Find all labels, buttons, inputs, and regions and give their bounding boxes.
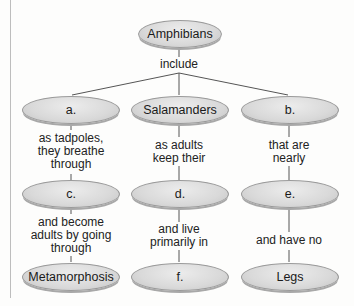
link-text-line: nearly: [239, 152, 339, 165]
node-f: f.: [131, 263, 229, 291]
link-text-line: keep their: [129, 152, 229, 165]
node-d: d.: [131, 180, 229, 208]
node-legs: Legs: [241, 263, 339, 291]
node-label: Legs: [276, 270, 303, 284]
node-label: c.: [66, 187, 76, 201]
link-as-adults-keep: as adults keep their: [129, 139, 229, 165]
link-text-line: primarily in: [129, 236, 229, 249]
node-e: e.: [241, 180, 339, 208]
link-text-line: through: [21, 242, 121, 255]
node-a: a.: [22, 96, 120, 124]
node-c: c.: [22, 180, 120, 208]
link-and-become-adults: and become adults by going through: [21, 216, 121, 255]
node-metamorphosis: Metamorphosis: [22, 263, 120, 291]
node-label: e.: [285, 187, 295, 201]
link-include: include: [139, 58, 219, 71]
link-text-line: through: [21, 158, 121, 171]
link-text-line: and have no: [234, 234, 344, 247]
link-and-have-no: and have no: [234, 234, 344, 247]
link-that-are-nearly: that are nearly: [239, 139, 339, 165]
node-label: f.: [177, 270, 184, 284]
node-label: b.: [285, 103, 295, 117]
node-label: a.: [66, 103, 76, 117]
node-b: b.: [241, 96, 339, 124]
link-as-tadpoles: as tadpoles, they breathe through: [21, 132, 121, 171]
link-and-live-primarily: and live primarily in: [129, 223, 229, 249]
node-amphibians: Amphibians: [138, 20, 222, 48]
node-label: Metamorphosis: [28, 270, 113, 284]
node-label: Amphibians: [147, 27, 212, 41]
node-salamanders: Salamanders: [131, 96, 229, 124]
node-label: d.: [175, 187, 185, 201]
node-label: Salamanders: [143, 103, 217, 117]
